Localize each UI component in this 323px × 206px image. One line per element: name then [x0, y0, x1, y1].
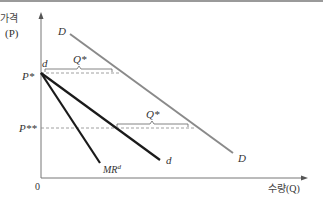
y-axis-arrow-icon: [39, 12, 44, 19]
q-star-label-upper: Q*: [73, 53, 87, 65]
x-axis-arrow-icon: [301, 176, 308, 181]
marginal-revenue-curve: [41, 73, 100, 163]
q-star-bracket-upper: [45, 66, 112, 72]
q-star-bracket-lower: [117, 121, 188, 127]
marginal-revenue-label: MRd: [102, 163, 121, 175]
market-demand-label-start: D: [57, 25, 66, 37]
market-demand-label-end: D: [237, 152, 246, 164]
p-star-star-label: P**: [18, 122, 37, 134]
axes: [39, 12, 309, 181]
market-demand-curve: [70, 34, 233, 153]
p-star-label: P*: [21, 70, 35, 82]
origin-label: 0: [35, 181, 40, 192]
y-axis-var: (P): [5, 27, 19, 40]
demand-diagram: 가격 (P) D D d d MRd P* P** Q* Q* 0 수량(Q): [0, 0, 323, 206]
y-axis-label: 가격: [0, 12, 18, 24]
x-axis-label: 수량(Q): [268, 183, 300, 195]
q-star-label-lower: Q*: [146, 108, 160, 120]
firm-demand-label-end: d: [166, 154, 172, 166]
firm-demand-label-start: d: [42, 57, 48, 69]
